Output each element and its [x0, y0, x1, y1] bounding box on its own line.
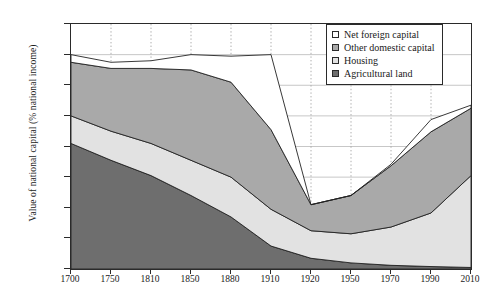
- legend-item-label: Agricultural land: [344, 68, 413, 79]
- x-tick-label: 1810: [128, 274, 172, 284]
- legend-item-label: Other domestic capital: [344, 42, 435, 53]
- legend-item-label: Net foreign capital: [344, 29, 419, 40]
- legend-item-label: Housing: [344, 55, 378, 66]
- legend-swatch-icon: [332, 57, 339, 64]
- x-tick-label: 1750: [88, 274, 132, 284]
- legend-swatch-icon: [332, 70, 339, 77]
- x-tick-label: 1880: [208, 274, 252, 284]
- legend-swatch-icon: [332, 44, 339, 51]
- chart-legend: Net foreign capitalOther domestic capita…: [326, 24, 443, 85]
- legend-item-agricultural-land: Agricultural land: [332, 67, 435, 80]
- legend-swatch-icon: [332, 31, 339, 38]
- x-tick-label: 1990: [408, 274, 452, 284]
- legend-item-housing: Housing: [332, 54, 435, 67]
- x-tick-label: 2010: [448, 274, 486, 284]
- capital-composition-chart: Value of national capital (% national in…: [0, 0, 486, 303]
- x-tick-label: 1920: [288, 274, 332, 284]
- x-tick-label: 1700: [48, 274, 92, 284]
- x-tick-label: 1910: [248, 274, 292, 284]
- y-axis-title: Value of national capital (% national in…: [28, 3, 38, 263]
- x-tick-label: 1850: [168, 274, 212, 284]
- legend-item-other-domestic-capital: Other domestic capital: [332, 41, 435, 54]
- legend-item-net-foreign-capital: Net foreign capital: [332, 28, 435, 41]
- x-tick-label: 1950: [328, 274, 372, 284]
- x-tick-label: 1970: [368, 274, 412, 284]
